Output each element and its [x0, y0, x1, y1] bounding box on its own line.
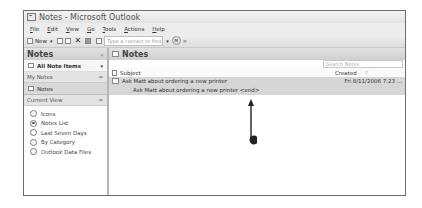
- sort-icon: ▽: [365, 70, 368, 75]
- print-icon[interactable]: [57, 38, 63, 44]
- notes-list-pane: Notes Search Notes Subject Created ▽ Ask…: [109, 48, 405, 195]
- notes-icon: [28, 86, 34, 91]
- radio-icon: [30, 148, 37, 155]
- view-outlook-data-files[interactable]: Outlook Data Files: [30, 147, 107, 157]
- chevron-down-icon[interactable]: ▾: [166, 38, 169, 44]
- view-label: Icons: [41, 111, 55, 117]
- my-notes-header[interactable]: My Notes ≈: [24, 72, 107, 83]
- nav-title: Notes: [27, 50, 53, 59]
- menu-help[interactable]: Help: [152, 26, 165, 32]
- menu-actions[interactable]: Actions: [124, 26, 144, 32]
- callout-arrow-icon: [245, 99, 257, 149]
- collapse-section-icon: ≈: [98, 74, 103, 80]
- delete-icon[interactable]: ✕: [75, 36, 82, 45]
- notes-folder[interactable]: Notes: [24, 83, 107, 95]
- new-note-icon: [27, 38, 33, 44]
- created-label: Created: [335, 70, 357, 76]
- view-label: By Category: [41, 139, 75, 145]
- current-view-label: Current View: [27, 97, 62, 103]
- notes-icon: [112, 51, 119, 57]
- all-items-label: All Note Items: [37, 63, 81, 69]
- radio-icon: [30, 139, 37, 146]
- view-last-seven-days[interactable]: Last Seven Days: [30, 128, 107, 138]
- contact-placeholder: Type a contact to find: [107, 38, 161, 44]
- help-icon[interactable]: M: [172, 36, 181, 45]
- title-bar: Notes - Microsoft Outlook: [24, 11, 405, 23]
- view-label: Last Seven Days: [41, 130, 87, 136]
- contact-search-input[interactable]: Type a contact to find: [104, 36, 163, 46]
- move-to-folder-icon[interactable]: [65, 38, 71, 44]
- view-label: Outlook Data Files: [41, 149, 91, 155]
- address-book-icon[interactable]: [96, 38, 102, 44]
- new-label: New: [35, 38, 47, 44]
- column-created[interactable]: Created ▽: [335, 70, 405, 76]
- note-type-icon: [112, 70, 117, 76]
- all-note-items-dropdown[interactable]: All Note Items ▾: [24, 60, 107, 72]
- new-button[interactable]: New ▾: [27, 38, 53, 44]
- view-by-category[interactable]: By Category: [30, 138, 107, 148]
- window-title: Notes - Microsoft Outlook: [39, 13, 140, 22]
- subject-label: Subject: [120, 70, 141, 76]
- note-subject: Ask Matt about ordering a new printer: [122, 78, 227, 84]
- chevron-down-icon[interactable]: ▾: [50, 38, 53, 44]
- note-created-date: Fri 8/11/2006 7:23 ...: [344, 78, 402, 84]
- search-notes-input[interactable]: Search Notes: [323, 60, 403, 68]
- current-view-header[interactable]: Current View ≈: [24, 95, 107, 106]
- note-preview: Ask Matt about ordering a new printer <e…: [133, 87, 259, 93]
- search-placeholder: Search Notes: [326, 61, 359, 67]
- navigation-pane: Notes « All Note Items ▾ My Notes ≈ Note…: [24, 48, 109, 195]
- menu-file[interactable]: File: [30, 26, 39, 32]
- view-icon[interactable]: [85, 38, 91, 44]
- radio-selected-icon: [30, 120, 37, 127]
- table-row[interactable]: Ask Matt about ordering a new printer As…: [109, 77, 405, 95]
- note-icon: [112, 78, 119, 84]
- nav-header: Notes «: [24, 48, 107, 60]
- outlook-window: Notes - Microsoft Outlook File Edit View…: [23, 10, 406, 196]
- view-options: Icons Notes List Last Seven Days By Cate…: [24, 106, 107, 157]
- notes-app-icon: [27, 13, 36, 21]
- radio-icon: [30, 110, 37, 117]
- collapse-section-icon: ≈: [98, 97, 103, 103]
- menu-tools[interactable]: Tools: [103, 26, 117, 32]
- main-header: Notes: [109, 48, 405, 60]
- radio-icon: [30, 129, 37, 136]
- my-notes-label: My Notes: [27, 74, 53, 80]
- menu-go[interactable]: Go: [87, 26, 95, 32]
- notes-folder-label: Notes: [37, 86, 53, 92]
- notes-icon: [28, 63, 34, 68]
- main-title: Notes: [122, 50, 148, 59]
- menu-edit[interactable]: Edit: [47, 26, 58, 32]
- chevron-down-icon: ▾: [100, 63, 103, 69]
- view-label: Notes List: [41, 120, 68, 126]
- menu-bar: File Edit View Go Tools Actions Help: [24, 23, 405, 34]
- view-icons[interactable]: Icons: [30, 109, 107, 119]
- column-subject[interactable]: Subject: [109, 70, 335, 76]
- collapse-icon[interactable]: «: [100, 51, 104, 58]
- toolbar-options-icon[interactable]: ≡: [183, 38, 187, 44]
- view-notes-list[interactable]: Notes List: [30, 119, 107, 129]
- menu-view[interactable]: View: [66, 26, 79, 32]
- toolbar: New ▾ ✕ Type a contact to find ▾ M ≡: [24, 34, 405, 48]
